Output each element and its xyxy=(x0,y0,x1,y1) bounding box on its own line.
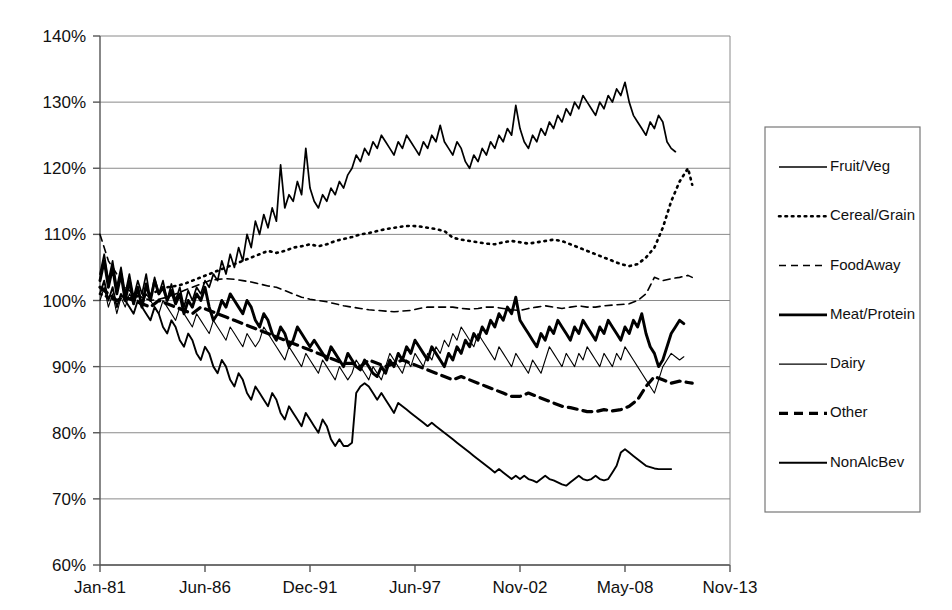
line-chart: 60%70%80%90%100%110%120%130%140% Jan-81J… xyxy=(0,0,952,610)
x-tick-label: Jun-86 xyxy=(179,578,231,597)
chart-container: 60%70%80%90%100%110%120%130%140% Jan-81J… xyxy=(0,0,952,610)
y-tick-label: 90% xyxy=(52,358,86,377)
legend-label-other: Other xyxy=(830,403,868,420)
legend-label-meat-protein: Meat/Protein xyxy=(830,305,915,322)
y-tick-label: 60% xyxy=(52,556,86,575)
x-tick-label: Nov-02 xyxy=(493,578,548,597)
y-tick-label: 130% xyxy=(43,93,86,112)
legend-label-fruit-veg: Fruit/Veg xyxy=(830,157,890,174)
x-tick-label: Jan-81 xyxy=(74,578,126,597)
x-axis-tick-labels: Jan-81Jun-86Dec-91Jun-97Nov-02May-08Nov-… xyxy=(74,578,757,597)
x-tick-label: Nov-13 xyxy=(703,578,758,597)
y-tick-label: 80% xyxy=(52,424,86,443)
legend-label-dairy: Dairy xyxy=(830,354,866,371)
legend-label-nonalcbev: NonAlcBev xyxy=(830,453,905,470)
legend-label-cereal-grain: Cereal/Grain xyxy=(830,206,915,223)
x-tick-label: Dec-91 xyxy=(283,578,338,597)
y-tick-label: 110% xyxy=(44,225,86,244)
x-tick-label: May-08 xyxy=(597,578,654,597)
y-axis-tick-labels: 60%70%80%90%100%110%120%130%140% xyxy=(43,27,86,575)
y-tick-label: 120% xyxy=(43,159,86,178)
y-tick-label: 140% xyxy=(43,27,86,46)
series-line-other xyxy=(100,287,692,411)
x-tick-label: Jun-97 xyxy=(389,578,441,597)
y-tick-label: 70% xyxy=(52,490,86,509)
chart-legend: Fruit/VegCereal/GrainFoodAwayMeat/Protei… xyxy=(765,127,920,512)
series-line-fruit-veg xyxy=(100,82,675,307)
data-series-group xyxy=(100,82,692,485)
y-tick-label: 100% xyxy=(43,292,86,311)
legend-label-foodaway: FoodAway xyxy=(830,256,901,273)
